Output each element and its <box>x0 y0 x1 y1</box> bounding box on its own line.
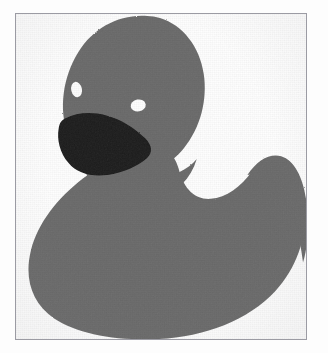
figure-frame <box>15 13 307 340</box>
duck-illustration <box>16 14 306 339</box>
cropped-text-fragment: nnnnnnnnnnnnn nnnnnn nnnnnnnn <box>0 0 328 9</box>
cropped-text-fragment-label: nnnnnnnnnnnnn nnnnnn nnnnnnnn <box>18 0 214 2</box>
scan-speckle <box>16 14 306 339</box>
scanned-page: nnnnnnnnnnnnn nnnnnn nnnnnnnn <box>0 0 328 353</box>
